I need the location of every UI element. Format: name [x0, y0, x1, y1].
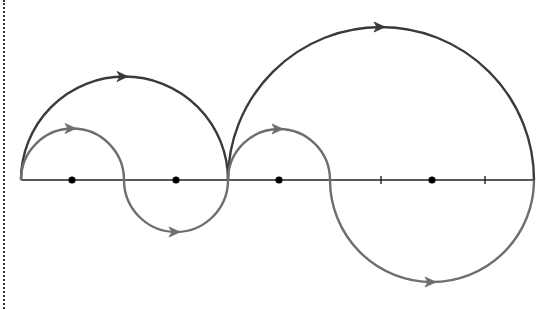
contour-diagram	[0, 0, 545, 309]
outer-arc-1	[228, 27, 534, 180]
inner-arc-0	[21, 129, 124, 181]
pole-dot-3	[428, 176, 435, 183]
diagram-frame	[0, 0, 545, 309]
pole-dot-1	[172, 176, 179, 183]
inner-arc-3	[330, 180, 534, 282]
outer-contour-path	[21, 22, 534, 180]
pole-dot-0	[68, 176, 75, 183]
inner-arc-1	[124, 180, 228, 232]
inner-contour-path	[21, 124, 534, 288]
outer-arc-0	[21, 76, 228, 180]
inner-arc-2	[228, 129, 330, 180]
pole-dot-2	[275, 176, 282, 183]
